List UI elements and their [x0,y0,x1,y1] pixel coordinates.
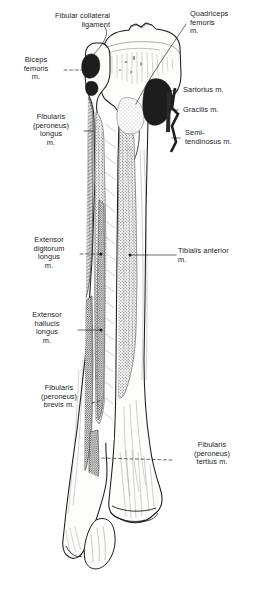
biceps-femoris-site-lower [85,81,98,95]
label-tibialis-anterior: Tibialis anterior m. [178,247,258,264]
label-fibularis-longus: Fibularis (peroneus) longus m. [18,113,84,147]
label-quadriceps-femoris: Quadriceps femoris m. [190,10,258,36]
label-gracilis: Gracilis m. [183,106,259,115]
label-fibularis-tertius: Fibularis (peroneus) tertius m. [174,441,250,467]
label-semitendinosus: Semi- tendinosus m. [185,129,259,146]
label-extensor-hallucis-longus: Extensor hallucis longus m. [16,311,78,345]
label-fibular-collateral-ligament: Fibular collateral ligament [8,12,110,29]
biceps-femoris-site [82,54,100,78]
extensor-hallucis-longus-area [97,200,105,420]
label-fibularis-brevis: Fibularis (peroneus) brevis m. [26,384,92,410]
label-biceps-femoris: Biceps femoris m. [8,56,64,82]
label-sartorius: Sartorius m. [183,86,259,95]
label-extensor-digitorum-longus: Extensor digitorum longus m. [18,236,80,270]
